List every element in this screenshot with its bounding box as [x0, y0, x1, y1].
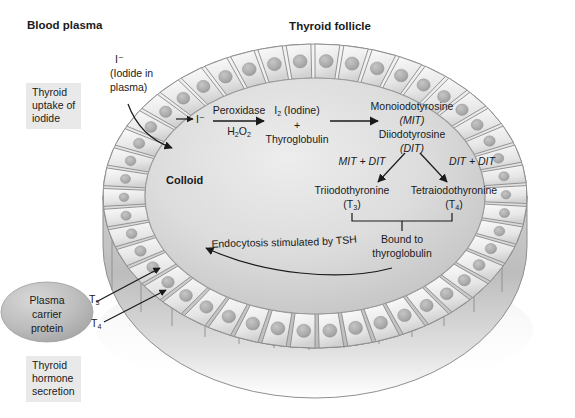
secreted-t3-tag: T3	[89, 293, 99, 307]
carrier-protein-line3: protein	[31, 322, 63, 334]
endocytosis-caption-layer: Endocytosis stimulated by TSH	[0, 0, 575, 418]
carrier-protein-line1: Plasma	[29, 294, 64, 306]
secreted-t4-tag: T4	[91, 317, 101, 331]
svg-text:Endocytosis stimulated by TSH: Endocytosis stimulated by TSH	[211, 233, 357, 250]
carrier-protein-line2: carrier	[32, 308, 62, 320]
endocytosis-caption: Endocytosis stimulated by TSH	[211, 233, 357, 250]
thyroid-follicle-diagram: Blood plasma Thyroid follicle Thyroid up…	[0, 0, 575, 418]
